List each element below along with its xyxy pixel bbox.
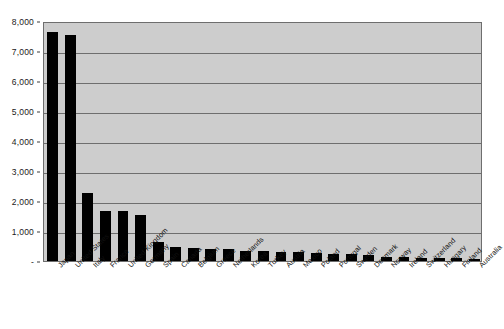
bar-slot bbox=[307, 23, 325, 261]
y-axis-tick-label: 7,000 bbox=[12, 47, 34, 57]
bar-slot bbox=[62, 23, 80, 261]
plot-area bbox=[43, 22, 482, 262]
bar-slot bbox=[448, 23, 466, 261]
bar-slot bbox=[149, 23, 167, 261]
bar-slot bbox=[430, 23, 448, 261]
bar[interactable] bbox=[65, 35, 76, 261]
bar-slot bbox=[378, 23, 396, 261]
y-axis-tick-mark bbox=[37, 232, 40, 233]
y-axis-tick-mark bbox=[37, 112, 40, 113]
bar-slot bbox=[237, 23, 255, 261]
y-axis: 8,0007,0006,0005,0004,0003,0002,0001,000… bbox=[0, 0, 40, 329]
bar-slot bbox=[132, 23, 150, 261]
y-axis-tick-label: 3,000 bbox=[12, 167, 34, 177]
x-axis: JapanUnited StatesItalyFranceUnited King… bbox=[43, 263, 482, 329]
bar-slot bbox=[167, 23, 185, 261]
y-axis-tick-mark bbox=[37, 142, 40, 143]
bar-slot bbox=[272, 23, 290, 261]
bar-slot bbox=[325, 23, 343, 261]
y-axis-tick-mark bbox=[37, 262, 40, 263]
bar-slot bbox=[290, 23, 308, 261]
bars-layer bbox=[44, 23, 481, 261]
bar-slot bbox=[97, 23, 115, 261]
y-axis-tick-label: - bbox=[31, 257, 34, 267]
y-axis-tick-label: 4,000 bbox=[12, 137, 34, 147]
y-axis-tick-label: 2,000 bbox=[12, 197, 34, 207]
bar-slot bbox=[343, 23, 361, 261]
bar-slot bbox=[255, 23, 273, 261]
y-axis-tick-label: 8,000 bbox=[12, 17, 34, 27]
bar-slot bbox=[395, 23, 413, 261]
y-axis-tick-mark bbox=[37, 172, 40, 173]
bar-slot bbox=[360, 23, 378, 261]
y-axis-tick-mark bbox=[37, 52, 40, 53]
bar-slot bbox=[79, 23, 97, 261]
bar-slot bbox=[202, 23, 220, 261]
bar-slot bbox=[114, 23, 132, 261]
y-axis-tick-label: 1,000 bbox=[12, 227, 34, 237]
bar-slot bbox=[413, 23, 431, 261]
bar[interactable] bbox=[47, 32, 58, 261]
y-axis-tick-label: 6,000 bbox=[12, 77, 34, 87]
y-axis-tick-mark bbox=[37, 82, 40, 83]
bar-slot bbox=[220, 23, 238, 261]
bar-slot bbox=[44, 23, 62, 261]
y-axis-tick-mark bbox=[37, 22, 40, 23]
bar-slot bbox=[465, 23, 483, 261]
bar-slot bbox=[184, 23, 202, 261]
y-axis-tick-mark bbox=[37, 202, 40, 203]
y-axis-tick-label: 5,000 bbox=[12, 107, 34, 117]
